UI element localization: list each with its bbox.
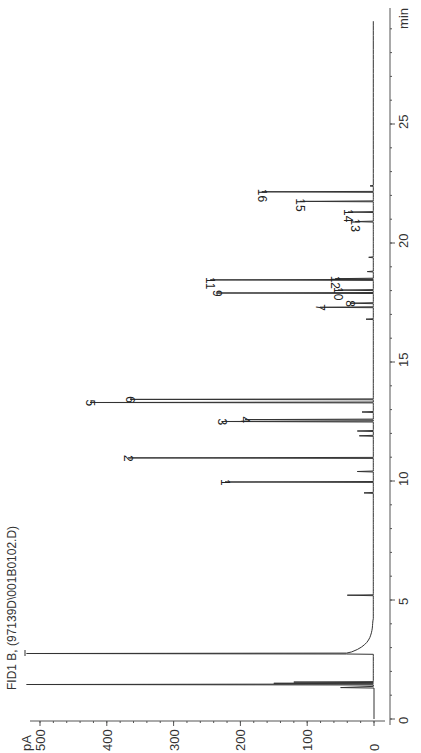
peak-label: 5 [83, 399, 97, 406]
pa-tick-label: 400 [100, 729, 115, 751]
pa-tick-label: 300 [167, 729, 182, 751]
peak-label: 10 [331, 287, 345, 301]
time-tick-label: 20 [396, 234, 411, 248]
pa-axis: 0100200300400500pA [19, 721, 385, 751]
time-tick-label: 15 [396, 353, 411, 367]
trace-path [27, 21, 374, 719]
peak-label: 2 [121, 455, 135, 462]
peak-label: 12 [328, 276, 342, 290]
time-tick-label: 25 [396, 115, 411, 129]
time-tick-label: 10 [396, 472, 411, 486]
peak-label: 14 [341, 209, 355, 223]
pa-tick-label: 200 [233, 729, 248, 751]
pa-axis-label: pA [19, 735, 34, 751]
peak-label: 9 [210, 290, 224, 297]
peak-label: 15 [293, 198, 307, 212]
peak-label: 4 [238, 417, 252, 424]
peak-label: 6 [123, 396, 137, 403]
chart-title: FID1 B, (97139D\001B0102.D) [5, 526, 19, 690]
chromatogram-trace [25, 21, 374, 719]
chromatogram-chart: FID1 B, (97139D\001B0102.D) 010020030040… [0, 0, 421, 753]
time-axis-label: min [396, 8, 411, 29]
pa-tick-label: 500 [33, 729, 48, 751]
peak-labels: 12345678910111213141516 [83, 189, 362, 486]
peak-label: 8 [343, 300, 357, 307]
time-tick-label: 5 [396, 598, 411, 605]
peak-label: 11 [203, 277, 217, 290]
time-axis: 0510152025min [390, 8, 411, 725]
peak-label: 3 [215, 419, 229, 426]
peak-label: 1 [218, 479, 232, 486]
pa-tick-label: 0 [367, 744, 382, 751]
peak-label: 16 [255, 189, 269, 203]
pa-tick-label: 100 [300, 729, 315, 751]
peak-label: 7 [313, 304, 327, 311]
time-tick-label: 0 [396, 717, 411, 724]
